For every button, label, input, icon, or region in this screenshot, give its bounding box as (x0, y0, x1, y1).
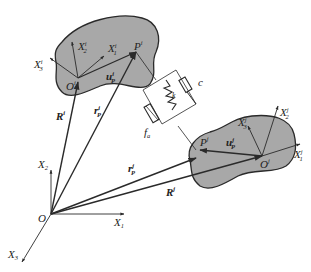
label-X3i: Xi3 (33, 58, 44, 72)
multibody-diagram: O X2 X1 X3 Oi Pi Xi2 Xi1 Xi3 uiP Ri riP … (0, 0, 311, 272)
label-ri: riP (94, 104, 102, 118)
label-X3j: Xj3 (237, 116, 248, 130)
label-X3: X3 (7, 248, 19, 261)
label-c: c (198, 76, 203, 88)
label-O: O (38, 212, 46, 224)
label-rj: rjP (128, 162, 136, 176)
label-Rj: Rj (165, 185, 175, 198)
label-X1i: Xi1 (107, 42, 117, 56)
label-k: k (172, 91, 176, 100)
damper-icon (179, 77, 196, 104)
label-X1: X1 (113, 216, 124, 229)
label-X2: X2 (37, 158, 49, 171)
label-Ri: Ri (55, 109, 65, 122)
label-fa: fa (144, 126, 150, 139)
actuator-icon (144, 104, 159, 123)
label-X1j: Xj1 (293, 148, 303, 162)
diagram-canvas: O X2 X1 X3 Oi Pi Xi2 Xi1 Xi3 uiP Ri riP … (0, 0, 311, 272)
label-X2j: Xj2 (279, 106, 290, 120)
label-X2i: Xi2 (77, 40, 88, 54)
